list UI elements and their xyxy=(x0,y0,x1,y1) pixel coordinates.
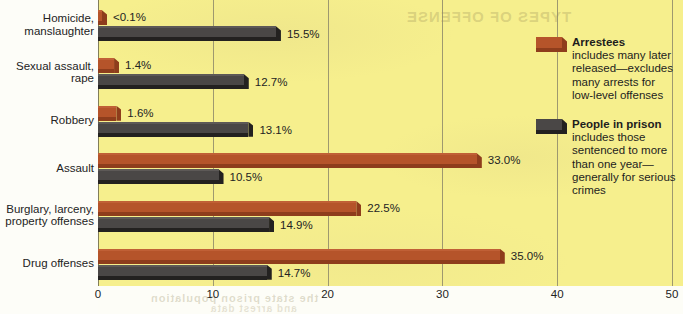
bar-end-cap xyxy=(500,249,505,264)
bar-arrestees xyxy=(98,201,356,216)
bar-shadow xyxy=(98,85,244,89)
bar-shadow xyxy=(98,37,276,41)
bar-shadow xyxy=(98,21,102,25)
bar-people-in-prison xyxy=(98,265,267,280)
value-label-arrestees: 35.0% xyxy=(511,250,544,262)
x-tick-label-50: 50 xyxy=(666,288,679,300)
value-label-people-in-prison: 14.7% xyxy=(278,267,311,279)
legend-swatch-arrestee xyxy=(536,37,562,52)
bar-highlight xyxy=(98,122,248,124)
bar-highlight xyxy=(98,74,244,76)
bar-arrestees xyxy=(98,153,477,168)
x-tick-label-40: 40 xyxy=(551,288,564,300)
bar-shadow xyxy=(98,260,500,264)
category-label: Robbery xyxy=(0,114,94,127)
bar-highlight xyxy=(98,10,102,12)
bar-arrestees xyxy=(98,58,114,73)
bar-end-cap xyxy=(248,122,253,137)
bar-highlight xyxy=(98,201,356,203)
bar-shadow xyxy=(98,180,219,184)
swatch-end-cap xyxy=(562,119,567,134)
legend-text: People in prisonincludes those sentenced… xyxy=(572,118,678,197)
bar-end-cap xyxy=(356,201,361,216)
bar-end-cap xyxy=(102,10,107,25)
legend-description: includes many later released—excludes ma… xyxy=(572,49,678,102)
category-label: Sexual assault, rape xyxy=(0,60,94,85)
value-label-arrestees: 22.5% xyxy=(367,202,400,214)
chart-row: Drug offenses35.0%14.7% xyxy=(0,238,683,286)
bar-shadow xyxy=(98,133,248,137)
bar-people-in-prison xyxy=(98,26,276,41)
bar-shadow xyxy=(98,69,114,73)
value-label-people-in-prison: 10.5% xyxy=(230,171,263,183)
bar-end-cap xyxy=(477,153,482,168)
bar-end-cap xyxy=(276,26,281,41)
value-label-people-in-prison: 15.5% xyxy=(287,28,320,40)
value-label-arrestees: 1.6% xyxy=(127,107,153,119)
value-label-arrestees: 1.4% xyxy=(125,59,151,71)
chart-legend: Arresteesincludes many later released—ex… xyxy=(536,36,678,213)
bar-end-cap xyxy=(267,265,272,280)
legend-entry-arrestee: Arresteesincludes many later released—ex… xyxy=(536,36,678,102)
bar-highlight xyxy=(98,58,114,60)
bar-chart-figure: TYPES OF OFFENSE the state prison popula… xyxy=(0,0,683,314)
x-axis-tick-labels: 01020304050 xyxy=(0,288,683,310)
category-label: Burglary, larceny, property offenses xyxy=(0,203,94,228)
legend-description: includes those sentenced to more than on… xyxy=(572,131,678,197)
bar-highlight xyxy=(98,249,500,251)
bar-end-cap xyxy=(116,106,121,121)
bar-end-cap xyxy=(114,58,119,73)
legend-swatch-prison xyxy=(536,119,562,134)
legend-title: People in prison xyxy=(572,118,678,131)
bar-shadow xyxy=(98,164,477,168)
bar-shadow xyxy=(98,228,269,232)
bar-shadow xyxy=(98,276,267,280)
legend-text: Arresteesincludes many later released—ex… xyxy=(572,36,678,102)
bar-people-in-prison xyxy=(98,169,219,184)
bar-highlight xyxy=(98,106,116,108)
value-label-people-in-prison: 13.1% xyxy=(259,124,292,136)
value-label-arrestees: 33.0% xyxy=(488,154,521,166)
x-tick-label-0: 0 xyxy=(95,288,101,300)
value-label-arrestees: <0.1% xyxy=(113,11,146,23)
legend-title: Arrestees xyxy=(572,36,678,49)
bar-end-cap xyxy=(244,74,249,89)
bar-people-in-prison xyxy=(98,122,248,137)
bar-shadow xyxy=(98,117,116,121)
bar-highlight xyxy=(98,217,269,219)
swatch-end-cap xyxy=(562,37,567,52)
category-label: Assault xyxy=(0,162,94,175)
category-label: Homicide, manslaughter xyxy=(0,12,94,37)
bar-end-cap xyxy=(219,169,224,184)
legend-entry-prison: People in prisonincludes those sentenced… xyxy=(536,118,678,197)
bar-highlight xyxy=(98,169,219,171)
bar-shadow xyxy=(98,212,356,216)
bar-people-in-prison xyxy=(98,74,244,89)
swatch-shadow xyxy=(536,130,562,134)
value-label-people-in-prison: 12.7% xyxy=(255,76,288,88)
bar-people-in-prison xyxy=(98,217,269,232)
bar-highlight xyxy=(98,153,477,155)
bar-arrestees xyxy=(98,10,102,25)
x-tick-label-20: 20 xyxy=(321,288,334,300)
bar-arrestees xyxy=(98,249,500,264)
x-tick-label-30: 30 xyxy=(436,288,449,300)
category-label: Drug offenses xyxy=(0,257,94,270)
bar-highlight xyxy=(98,26,276,28)
x-tick-label-10: 10 xyxy=(206,288,219,300)
value-label-people-in-prison: 14.9% xyxy=(280,219,313,231)
bar-end-cap xyxy=(269,217,274,232)
bar-highlight xyxy=(98,265,267,267)
swatch-shadow xyxy=(536,48,562,52)
bar-arrestees xyxy=(98,106,116,121)
